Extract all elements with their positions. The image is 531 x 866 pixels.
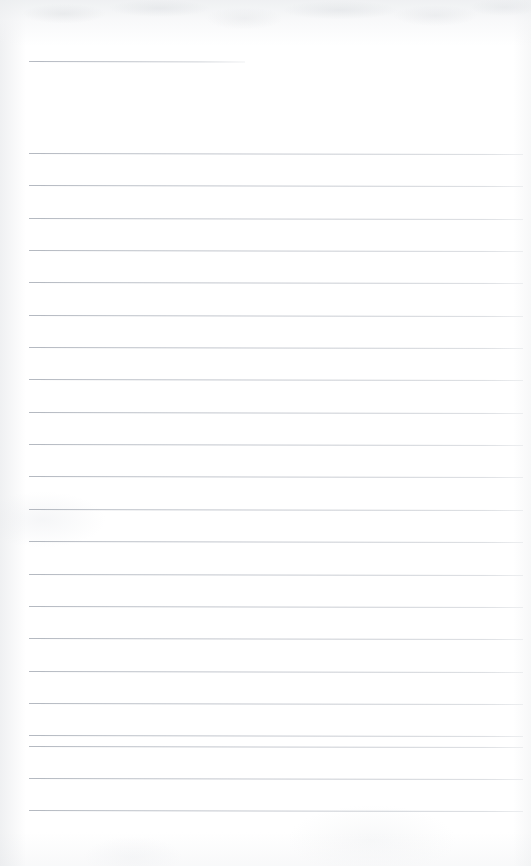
scanned-page: [0, 0, 531, 866]
paper-background: [0, 0, 531, 866]
